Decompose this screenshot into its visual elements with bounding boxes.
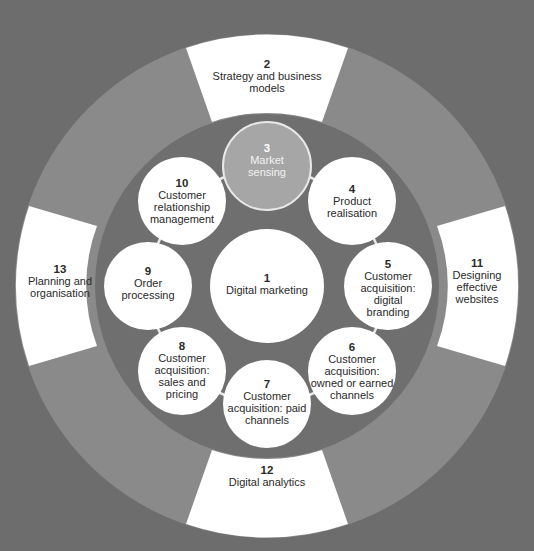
center-node: 1 Digital marketing	[212, 272, 322, 296]
segment-text: Strategy and business models	[202, 70, 332, 94]
segment-analytics: 12 Digital analytics	[202, 464, 332, 488]
node-text: Customer acquisition: digital branding	[355, 270, 421, 318]
segment-number: 2	[202, 58, 332, 70]
node-number: 10	[141, 177, 223, 189]
segment-number: 12	[202, 464, 332, 476]
node-text: Order processing	[115, 277, 181, 301]
node-number: 3	[227, 142, 307, 154]
segment-text: Digital analytics	[202, 476, 332, 488]
node-number: 7	[224, 378, 310, 390]
segment-number: 13	[20, 263, 100, 275]
node-text: Customer acquisition: owned or earned ch…	[309, 353, 395, 401]
node-owned-earned-channels: 6 Customer acquisition: owned or earned …	[309, 341, 395, 401]
center-node-number: 1	[212, 272, 322, 284]
node-sales-pricing: 8 Customer acquisition: sales and pricin…	[145, 340, 220, 400]
center-node-text: Digital marketing	[212, 284, 322, 296]
node-text: Customer acquisition: paid channels	[227, 390, 307, 426]
node-number: 6	[309, 341, 395, 353]
segment-planning: 13 Planning and organisation	[20, 263, 100, 299]
node-number: 4	[315, 183, 390, 195]
node-crm: 10 Customer relationship management	[141, 177, 223, 225]
node-number: 5	[351, 258, 426, 270]
segment-websites: 11 Designing effective websites	[447, 257, 507, 305]
node-market-sensing: 3 Market sensing	[227, 142, 307, 178]
node-digital-branding: 5 Customer acquisition: digital branding	[351, 258, 426, 318]
node-number: 8	[145, 340, 220, 352]
node-text: Product realisation	[322, 195, 382, 219]
segment-number: 11	[447, 257, 507, 269]
segment-text: Planning and organisation	[20, 275, 100, 299]
digital-marketing-diagram: 1 Digital marketing 3 Market sensing 4 P…	[0, 0, 534, 551]
node-text: Customer acquisition: sales and pricing	[149, 352, 215, 400]
segment-text: Designing effective websites	[447, 269, 507, 305]
node-text: Market sensing	[237, 154, 297, 178]
node-text: Customer relationship management	[141, 189, 223, 225]
node-product-realisation: 4 Product realisation	[315, 183, 390, 219]
node-order-processing: 9 Order processing	[111, 265, 186, 301]
node-number: 9	[111, 265, 186, 277]
node-paid-channels: 7 Customer acquisition: paid channels	[224, 378, 310, 426]
segment-strategy: 2 Strategy and business models	[202, 58, 332, 94]
